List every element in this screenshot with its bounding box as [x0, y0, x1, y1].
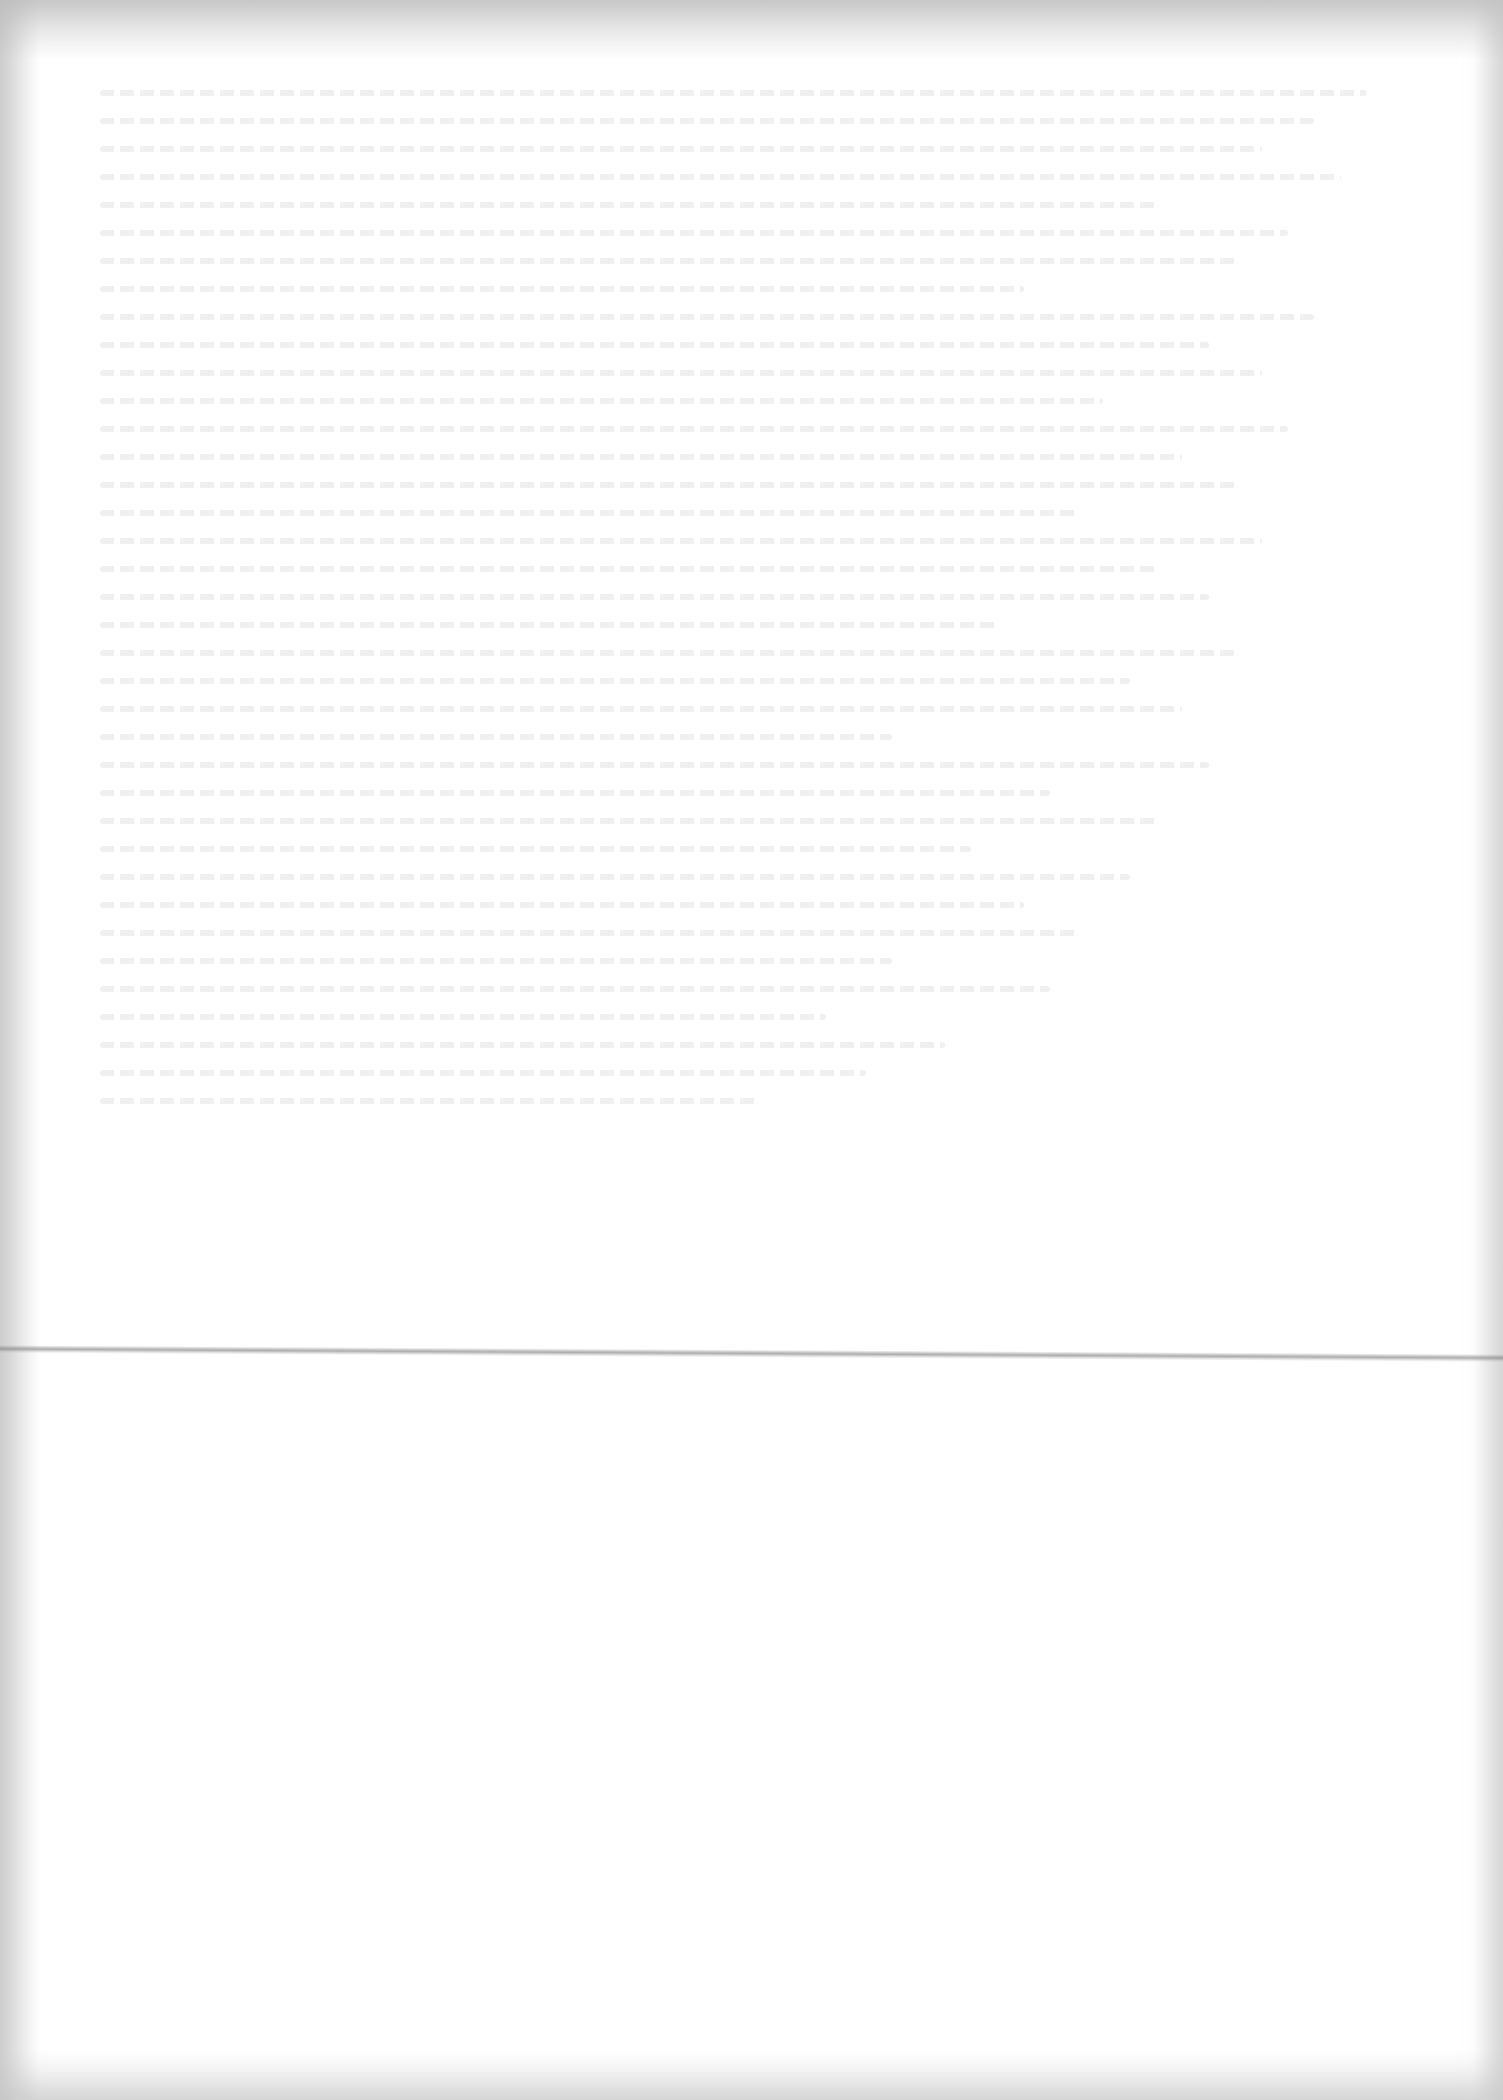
bleed-line: [100, 958, 892, 964]
bleed-line: [100, 174, 1341, 180]
bleed-line: [100, 538, 1262, 544]
bleed-line: [100, 1042, 945, 1048]
bleed-line: [100, 650, 1235, 656]
bleed-line: [100, 930, 1077, 936]
bleed-line: [100, 762, 1209, 768]
bleed-line: [100, 202, 1156, 208]
bleed-line: [100, 258, 1235, 264]
bleed-line: [100, 230, 1288, 236]
bleed-line: [100, 986, 1050, 992]
bleed-line: [100, 846, 971, 852]
bleed-line: [100, 342, 1209, 348]
bleed-through-text-area: [100, 90, 1420, 1126]
bleed-line: [100, 118, 1314, 124]
bleed-line: [100, 454, 1182, 460]
bleed-line: [100, 566, 1156, 572]
bleed-line: [100, 286, 1024, 292]
bleed-line: [100, 398, 1103, 404]
bleed-line: [100, 146, 1262, 152]
bleed-line: [100, 874, 1130, 880]
bleed-line: [100, 818, 1156, 824]
bleed-line: [100, 90, 1367, 96]
bleed-line: [100, 314, 1314, 320]
bleed-line: [100, 1014, 826, 1020]
bleed-line: [100, 902, 1024, 908]
fold-crease: [0, 1345, 1503, 1362]
bleed-line: [100, 370, 1262, 376]
scanned-page: [0, 0, 1503, 2100]
scan-edge-shadow-top: [0, 0, 1503, 60]
bleed-line: [100, 790, 1050, 796]
scan-edge-shadow-bottom: [0, 2050, 1503, 2100]
bleed-line: [100, 594, 1209, 600]
bleed-line: [100, 734, 892, 740]
bleed-line: [100, 1070, 866, 1076]
bleed-line: [100, 510, 1077, 516]
bleed-line: [100, 678, 1130, 684]
scan-edge-shadow-left: [0, 0, 40, 2100]
bleed-line: [100, 1098, 760, 1104]
bleed-line: [100, 426, 1288, 432]
bleed-line: [100, 482, 1235, 488]
scan-edge-shadow-right: [1473, 0, 1503, 2100]
bleed-line: [100, 706, 1182, 712]
bleed-line: [100, 622, 998, 628]
